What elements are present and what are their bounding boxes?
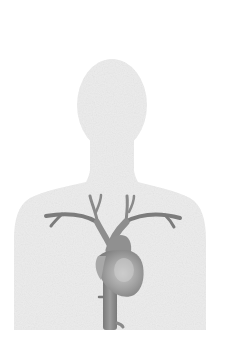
anatomy-illustration xyxy=(0,0,227,362)
heart-highlight xyxy=(114,258,134,282)
anatomy-svg xyxy=(0,0,227,362)
neck-silhouette xyxy=(90,135,134,185)
right-carotid-artery xyxy=(126,196,127,222)
